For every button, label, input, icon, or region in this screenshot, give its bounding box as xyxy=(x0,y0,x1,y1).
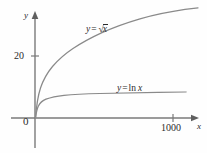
curve-label-sqrt: y=√x xyxy=(86,24,108,35)
y-axis-label: y xyxy=(24,11,28,20)
y-axis-arrow-icon xyxy=(32,11,39,19)
figure-container: y x 20 1000 0 y=√x y=lnx xyxy=(0,0,207,153)
curve-label-ln: y=lnx xyxy=(117,84,142,94)
x-axis-label: x xyxy=(197,122,201,131)
sqrt-label-operator: = xyxy=(90,24,97,34)
radicand: x xyxy=(103,24,108,35)
curve-ln-x xyxy=(36,92,187,118)
origin-label: 0 xyxy=(23,116,29,127)
ln-function-name: ln xyxy=(129,83,136,93)
ln-argument: x xyxy=(136,83,142,93)
radical-icon: √x xyxy=(98,24,108,35)
curve-sqrt-x xyxy=(36,8,199,118)
ln-label-operator: = xyxy=(121,83,128,93)
y-tick-label-20: 20 xyxy=(14,51,24,61)
x-tick-label-1000: 1000 xyxy=(161,123,181,133)
